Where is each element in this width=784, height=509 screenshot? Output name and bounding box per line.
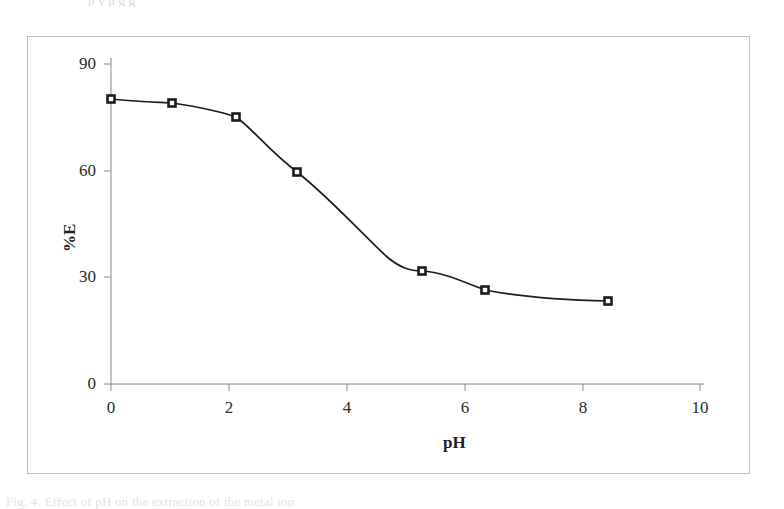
x-tick-label-10: 10 — [680, 398, 720, 418]
y-tick-label-60: 60 — [56, 161, 96, 181]
bottom-cut-off-caption: Fig. 4. Effect of pH on the extraction o… — [0, 494, 784, 509]
x-tick-label-0: 0 — [91, 398, 131, 418]
top-cut-off-text: p y p g g — [0, 0, 784, 7]
x-tick-label-6: 6 — [445, 398, 485, 418]
y-tick-label-0: 0 — [56, 374, 96, 394]
y-tick-label-90: 90 — [56, 54, 96, 74]
y-tick-label-30: 30 — [56, 267, 96, 287]
x-tick-label-8: 8 — [563, 398, 603, 418]
x-axis-title: pH — [443, 433, 466, 453]
y-axis-title: %E — [60, 224, 80, 252]
x-tick-label-2: 2 — [209, 398, 249, 418]
chart-frame — [27, 36, 750, 474]
x-tick-label-4: 4 — [327, 398, 367, 418]
